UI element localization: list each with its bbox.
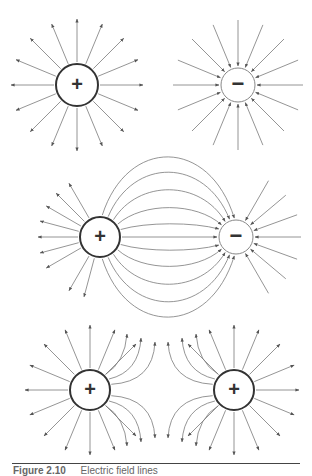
- field-line-connecting: [114, 253, 226, 285]
- field-line-outward: [52, 106, 68, 146]
- field-line-outward: [69, 183, 89, 218]
- negative-charge: −: [219, 220, 253, 254]
- field-line-outward: [250, 406, 280, 436]
- field-line-outward: [84, 258, 94, 297]
- field-line-inward: [178, 60, 221, 78]
- field-line-connecting: [108, 255, 229, 302]
- plus-sign-icon: +: [228, 378, 240, 400]
- field-line-outward: [86, 106, 103, 146]
- field-line-repelled: [196, 334, 218, 374]
- field-line-inward: [245, 103, 263, 146]
- field-line-inward: [251, 249, 286, 279]
- field-line-inward: [213, 103, 231, 146]
- field-line-inward: [251, 39, 284, 72]
- field-line-connecting: [118, 249, 222, 266]
- field-line-outward: [254, 398, 294, 415]
- field-line-inward: [256, 60, 299, 78]
- field-line-inward: [192, 98, 225, 131]
- field-line-outward: [65, 410, 82, 450]
- field-line-inward: [213, 25, 231, 68]
- positive-charge: +: [70, 370, 110, 410]
- field-line-outward: [69, 256, 89, 291]
- field-line-outward: [106, 344, 136, 374]
- field-line-connecting: [118, 208, 222, 225]
- field-line-outward: [65, 330, 82, 370]
- field-line-outward: [242, 330, 259, 370]
- field-line-outward: [40, 243, 79, 253]
- minus-sign-icon: −: [230, 223, 243, 248]
- field-line-outward: [30, 101, 60, 131]
- field-line-inward: [254, 244, 297, 260]
- field-line-inward: [251, 98, 284, 131]
- field-line-outward: [30, 398, 70, 415]
- field-line-outward: [98, 94, 138, 111]
- caption-divider: [12, 463, 300, 464]
- field-line-inward: [246, 254, 269, 294]
- field-line-repelled: [109, 401, 141, 442]
- positive-charge: +: [80, 217, 120, 257]
- field-line-outward: [16, 94, 56, 111]
- field-line-outward: [93, 38, 123, 68]
- negative-charge: −: [221, 68, 255, 102]
- field-line-outward: [106, 406, 136, 436]
- plus-sign-icon: +: [84, 378, 96, 400]
- field-line-outward: [46, 248, 81, 268]
- field-line-outward: [30, 38, 60, 68]
- field-line-outward: [86, 24, 103, 64]
- field-line-outward: [44, 344, 74, 374]
- field-line-outward: [98, 410, 115, 450]
- field-line-inward: [245, 25, 263, 68]
- field-line-connecting: [121, 224, 219, 230]
- field-line-outward: [46, 206, 81, 226]
- field-line-connecting: [121, 245, 219, 251]
- figure-caption: Figure 2.10 Electric field lines: [13, 466, 158, 476]
- field-line-inward: [178, 92, 221, 110]
- positive-charge: +: [56, 64, 98, 106]
- field-line-outward: [98, 330, 115, 370]
- field-line-outward: [30, 365, 70, 382]
- field-line-inward: [254, 215, 297, 231]
- field-line-repelled: [106, 406, 127, 446]
- field-line-inward: [251, 195, 286, 225]
- field-line-repelled: [182, 401, 215, 442]
- plus-sign-icon: +: [71, 73, 83, 95]
- field-line-outward: [98, 60, 138, 76]
- field-line-inward: [192, 39, 225, 72]
- caption-number: Figure 2.10: [13, 465, 66, 476]
- field-line-outward: [209, 330, 226, 370]
- field-line-outward: [250, 344, 280, 374]
- caption-text: Electric field lines: [81, 465, 158, 476]
- field-line-outward: [56, 193, 84, 221]
- field-line-outward: [44, 406, 74, 436]
- plus-sign-icon: +: [94, 225, 106, 247]
- field-line-repelled: [106, 334, 127, 374]
- field-line-outward: [209, 410, 226, 450]
- field-line-outward: [52, 24, 68, 64]
- field-line-connecting: [108, 172, 229, 219]
- field-line-inward: [246, 181, 269, 221]
- positive-charge: +: [214, 370, 254, 410]
- field-line-inward: [256, 92, 299, 110]
- minus-sign-icon: −: [232, 71, 245, 96]
- field-line-repelled: [182, 338, 215, 379]
- field-line-outward: [40, 221, 79, 231]
- field-line-outward: [16, 60, 56, 76]
- field-line-repelled: [109, 338, 141, 379]
- field-line-outward: [93, 101, 123, 131]
- field-line-outward: [254, 365, 294, 382]
- field-line-connecting: [114, 190, 226, 222]
- field-line-outward: [242, 410, 259, 450]
- field-line-repelled: [196, 406, 218, 446]
